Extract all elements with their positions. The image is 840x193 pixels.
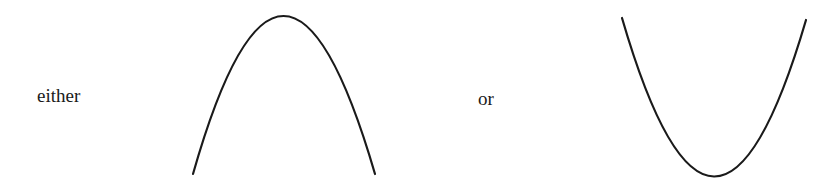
parabola-diagram: [0, 0, 840, 193]
concave-up-parabola: [622, 18, 806, 177]
or-label: or: [478, 89, 494, 108]
concave-down-parabola: [193, 16, 375, 174]
